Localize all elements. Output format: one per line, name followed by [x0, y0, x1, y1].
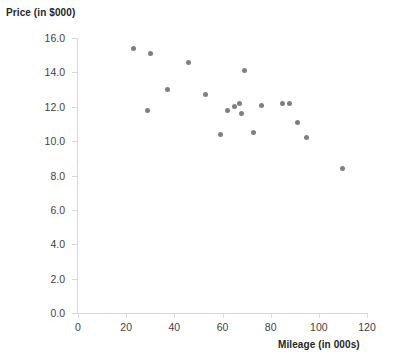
data-point [304, 135, 309, 140]
x-axis-title: Mileage (in 000s) [278, 339, 360, 350]
data-point [280, 101, 285, 106]
data-point [218, 132, 223, 137]
data-point [287, 101, 292, 106]
data-point [239, 111, 244, 116]
data-point [340, 166, 345, 171]
data-point [145, 108, 150, 113]
data-point [237, 101, 242, 106]
data-point [203, 92, 208, 97]
data-point [242, 68, 247, 73]
data-point [165, 87, 170, 92]
data-point [186, 60, 191, 65]
scatter-chart: Price (in $000) 0.02.04.06.08.010.012.01… [0, 0, 399, 360]
data-point [131, 46, 136, 51]
data-points-layer [0, 0, 399, 360]
data-point [251, 130, 256, 135]
data-point [295, 120, 300, 125]
data-point [148, 51, 153, 56]
data-point [225, 108, 230, 113]
data-point [232, 104, 237, 109]
data-point [259, 103, 264, 108]
